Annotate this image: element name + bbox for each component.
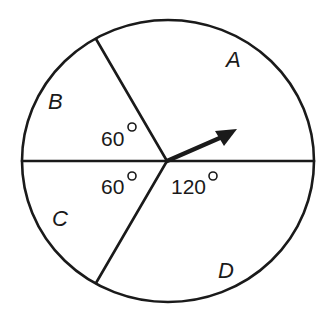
region-label-b: B bbox=[48, 89, 63, 114]
region-label-d: D bbox=[218, 258, 234, 283]
spinner-diagram: A B C D 60 60 120 bbox=[0, 0, 336, 314]
degree-symbol-icon bbox=[128, 172, 136, 180]
region-label-a: A bbox=[224, 47, 241, 72]
pointer-arrow-icon bbox=[167, 129, 237, 161]
degree-symbol-icon bbox=[128, 123, 136, 131]
degree-symbol-icon bbox=[209, 172, 217, 180]
angle-label-upper-left: 60 bbox=[101, 127, 124, 150]
angle-label-lower-left: 60 bbox=[101, 175, 124, 198]
region-label-c: C bbox=[52, 206, 68, 231]
angle-label-lower-right: 120 bbox=[171, 175, 206, 198]
